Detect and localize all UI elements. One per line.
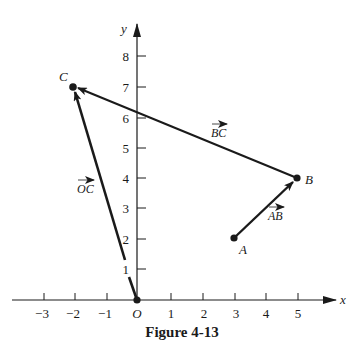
y-tick-label: 3 [123, 201, 130, 216]
x-tick-label: 4 [263, 306, 270, 321]
origin-label: O [132, 306, 142, 321]
x-axis-label: x [339, 292, 346, 307]
y-tick-label: 8 [123, 49, 130, 64]
x-tick-labels: −3 −2 −1 O 1 2 3 4 5 [35, 306, 301, 321]
vector-diagram: x y −3 −2 −1 O 1 2 3 4 5 1 [0, 0, 364, 359]
point-a [230, 234, 237, 241]
x-tick-label: 2 [201, 306, 208, 321]
vector-label-bc: BC [211, 124, 227, 140]
y-axis-label: y [119, 21, 127, 36]
vector-label-ab: AB [267, 207, 284, 223]
point-a-label: A [238, 242, 247, 257]
y-tick-label: 1 [123, 262, 130, 277]
y-tick-label: 2 [123, 232, 130, 247]
y-tick-label: 5 [123, 141, 130, 156]
x-tick-label: 5 [295, 306, 302, 321]
svg-text:AB: AB [267, 209, 283, 223]
point-o [133, 296, 140, 303]
x-tick-label: −2 [66, 306, 80, 321]
y-tick-label: 7 [123, 80, 130, 95]
point-b [293, 174, 300, 181]
vector-label-oc: OC [77, 180, 95, 196]
x-tick-label: −1 [98, 306, 112, 321]
point-c-label: C [59, 69, 68, 84]
y-tick-label: 4 [123, 171, 130, 186]
vector-bc [78, 88, 297, 178]
vector-ab [234, 182, 293, 238]
point-c [69, 83, 77, 91]
point-b-label: B [305, 172, 313, 187]
svg-text:OC: OC [77, 182, 95, 196]
x-axis: x [12, 292, 346, 307]
x-tick-label: 3 [233, 306, 240, 321]
y-tick-label: 6 [123, 111, 130, 126]
x-tick-label: 1 [168, 306, 175, 321]
y-ticks [137, 56, 146, 269]
figure-caption: Figure 4-13 [0, 324, 364, 341]
x-tick-label: −3 [35, 306, 49, 321]
y-tick-labels: 1 2 3 4 5 6 7 8 [123, 49, 130, 277]
x-ticks [44, 293, 298, 300]
svg-text:BC: BC [211, 126, 227, 140]
